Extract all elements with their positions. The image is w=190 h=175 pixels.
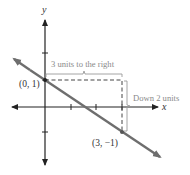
- vertical-annotation: Down 2 units: [133, 93, 180, 103]
- point-0-1: [43, 78, 47, 82]
- horizontal-brace: [46, 71, 122, 77]
- graph-line: [14, 59, 30, 70]
- coordinate-plane: y x (0, 1) (3, −1) 3 units to the right …: [0, 0, 190, 175]
- y-axis-label: y: [41, 4, 47, 15]
- point-label-3-neg1: (3, −1): [92, 138, 118, 149]
- vertical-brace: [124, 81, 130, 131]
- horizontal-annotation: 3 units to the right: [51, 59, 115, 69]
- point-label-0-1: (0, 1): [19, 79, 40, 90]
- point-3-neg1: [120, 130, 124, 134]
